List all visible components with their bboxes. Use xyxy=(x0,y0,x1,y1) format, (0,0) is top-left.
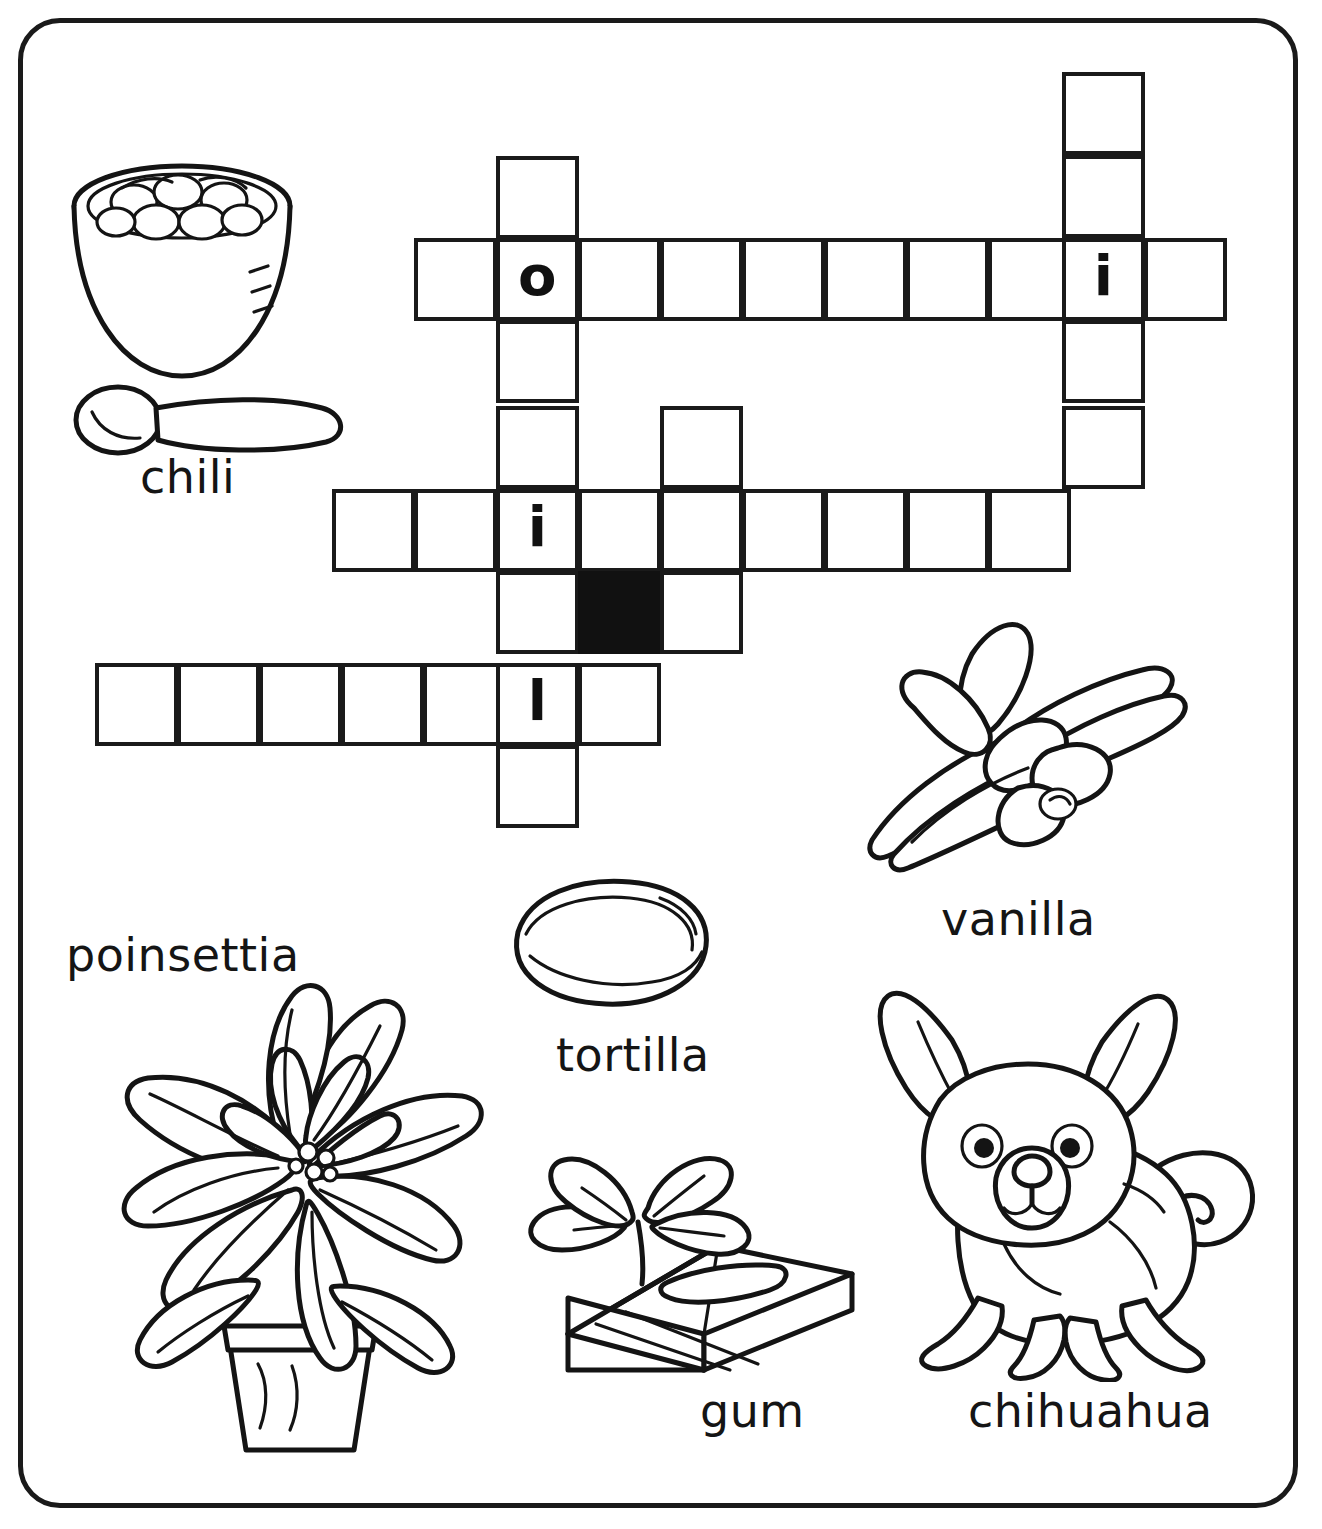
cell-r4c1[interactable] xyxy=(496,320,579,403)
cell-r6c4[interactable] xyxy=(742,489,825,572)
crossword-grid: oiil xyxy=(0,0,1322,1529)
cell-r3c5[interactable] xyxy=(824,238,907,321)
cell-r1c8[interactable] xyxy=(1062,72,1145,155)
cell-r3c3[interactable] xyxy=(660,238,743,321)
cell-r5c1[interactable] xyxy=(496,406,579,489)
cell-r8c2[interactable] xyxy=(578,663,661,746)
cell-r6c7[interactable] xyxy=(988,489,1071,572)
cell-r6c1[interactable]: i xyxy=(496,489,579,572)
cell-r7c1[interactable] xyxy=(496,571,579,654)
cell-r4c8[interactable] xyxy=(1062,320,1145,403)
cell-r8c-5[interactable] xyxy=(95,663,178,746)
cell-letter: o xyxy=(518,248,556,304)
cell-r2c1[interactable] xyxy=(496,156,579,239)
cell-r8c-3[interactable] xyxy=(259,663,342,746)
cell-r8c-1[interactable] xyxy=(423,663,506,746)
cell-r3c8[interactable]: i xyxy=(1062,238,1145,321)
cell-letter: i xyxy=(1094,248,1113,304)
cell-r7c3[interactable] xyxy=(660,571,743,654)
cell-r6c3[interactable] xyxy=(660,489,743,572)
cell-r6c0[interactable] xyxy=(414,489,497,572)
cell-r3c9[interactable] xyxy=(1144,238,1227,321)
cell-r6c5[interactable] xyxy=(824,489,907,572)
cell-r5c8[interactable] xyxy=(1062,406,1145,489)
cell-r7c2-blocked xyxy=(578,571,661,654)
cell-r3c4[interactable] xyxy=(742,238,825,321)
cell-letter: i xyxy=(528,499,547,555)
cell-r2c8[interactable] xyxy=(1062,155,1145,238)
cell-r5c3[interactable] xyxy=(660,406,743,489)
cell-r8c-4[interactable] xyxy=(177,663,260,746)
cell-r8c-2[interactable] xyxy=(341,663,424,746)
cell-r9c1[interactable] xyxy=(496,745,579,828)
cell-letter: l xyxy=(528,673,547,729)
cell-r3c6[interactable] xyxy=(906,238,989,321)
cell-r6c6[interactable] xyxy=(906,489,989,572)
cell-r6c2[interactable] xyxy=(578,489,661,572)
cell-r3c7[interactable] xyxy=(988,238,1071,321)
cell-r3c1[interactable]: o xyxy=(496,238,579,321)
cell-r6c-1[interactable] xyxy=(332,489,415,572)
cell-r3c2[interactable] xyxy=(578,238,661,321)
cell-r8c1[interactable]: l xyxy=(496,663,579,746)
cell-r3c0[interactable] xyxy=(414,238,497,321)
